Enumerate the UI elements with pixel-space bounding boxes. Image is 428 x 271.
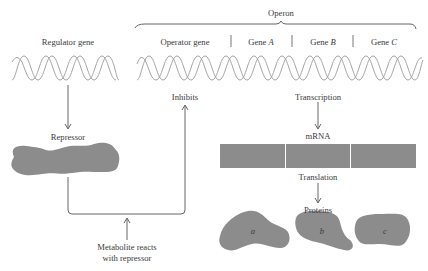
gene-prefix: Gene [248, 37, 268, 47]
mrna-segment-c [351, 144, 416, 168]
arrow-metabolite [124, 218, 130, 240]
operon-brace [135, 21, 416, 29]
protein-b-label: b [320, 227, 324, 236]
transcription-label: Transcription [295, 93, 341, 102]
gene-prefix: Gene [310, 37, 330, 47]
proteins-label: Proteins [304, 206, 332, 215]
arrow-regulator-to-repressor [65, 85, 71, 129]
metabolite-label-line2: with repressor [103, 254, 152, 263]
metabolite-label-line1: Metabolite reacts [97, 243, 156, 252]
gene-prefix: Gene [371, 37, 391, 47]
mrna-label: mRNA [306, 132, 331, 141]
protein-c-label: c [383, 227, 387, 236]
gene-letter: A [269, 37, 274, 47]
repressor-label: Repressor [51, 133, 85, 142]
inhibits-label: Inhibits [172, 93, 198, 102]
gene-letter: B [331, 37, 336, 47]
segment-gene-b-label: Gene B [310, 38, 336, 47]
protein-a-label: a [251, 227, 255, 236]
repressor-shape [11, 143, 119, 176]
operon-title: Operon [268, 9, 294, 18]
segment-operator-gene-label: Operator gene [161, 38, 210, 47]
translation-label: Translation [299, 173, 338, 182]
gene-letter: C [391, 37, 397, 47]
mrna-segment-b [286, 144, 350, 168]
operon-dna-helix [137, 56, 423, 80]
regulator-dna-helix [12, 56, 119, 80]
arrow-transcription [315, 102, 321, 129]
segment-gene-a-label: Gene A [248, 38, 274, 47]
mrna-strip [220, 144, 416, 168]
segment-gene-c-label: Gene C [371, 38, 397, 47]
arrow-translation [315, 183, 321, 203]
regulator-gene-label: Regulator gene [42, 38, 94, 47]
mrna-segment-a [220, 144, 285, 168]
